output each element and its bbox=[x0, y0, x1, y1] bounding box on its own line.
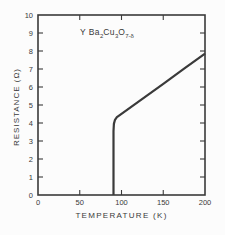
y-tick-label: 5 bbox=[0, 101, 33, 110]
y-tick-label: 7 bbox=[0, 65, 33, 74]
x-tick-label: 100 bbox=[115, 198, 128, 207]
y-tick-label: 10 bbox=[0, 11, 33, 20]
chart-title: Y Ba2Cu3O7-δ bbox=[80, 27, 170, 37]
resistance-temperature-figure: Y Ba2Cu3O7-δ RESISTANCE (Ω) TEMPERATURE … bbox=[0, 0, 225, 235]
y-tick-label: 6 bbox=[0, 83, 33, 92]
plot-frame bbox=[38, 15, 205, 195]
x-tick-label: 50 bbox=[76, 198, 84, 207]
x-tick-label: 200 bbox=[199, 198, 212, 207]
y-tick-label: 1 bbox=[0, 173, 33, 182]
title-subscript: 7-δ bbox=[125, 33, 134, 39]
y-tick-label: 4 bbox=[0, 119, 33, 128]
data-curve-resistance-vs-temperature bbox=[114, 54, 206, 195]
y-tick-label: 3 bbox=[0, 137, 33, 146]
title-subscript: 2 bbox=[100, 33, 103, 39]
y-tick-label: 0 bbox=[0, 191, 33, 200]
y-tick-label: 2 bbox=[0, 155, 33, 164]
y-tick-label: 9 bbox=[0, 29, 33, 38]
x-axis-title: TEMPERATURE (K) bbox=[38, 211, 205, 220]
y-tick-label: 8 bbox=[0, 47, 33, 56]
title-subscript: 3 bbox=[115, 33, 118, 39]
x-tick-label: 150 bbox=[157, 198, 170, 207]
x-tick-label: 0 bbox=[36, 198, 40, 207]
